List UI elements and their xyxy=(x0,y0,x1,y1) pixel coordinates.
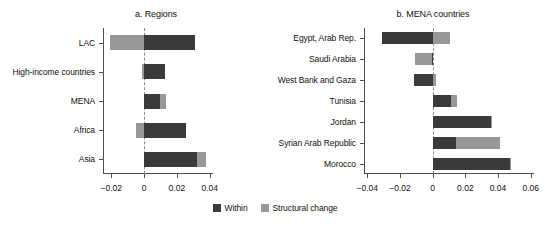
x-axis-tick-label: −0.02 xyxy=(389,183,411,193)
y-axis-category-label: Egypt, Arab Rep. xyxy=(293,33,356,43)
y-axis-category-label: MENA xyxy=(71,96,95,106)
bar-segment xyxy=(510,158,511,170)
y-axis-line-a xyxy=(103,28,104,174)
bar-segment xyxy=(110,35,144,50)
figure-root: a. Regions −0.0200.020.04LACHigh-income … xyxy=(0,0,550,230)
bar-segment xyxy=(433,158,511,170)
bar-segment xyxy=(197,152,205,167)
x-axis-tick-label: 0 xyxy=(430,183,435,193)
bar-segment xyxy=(144,64,165,79)
legend-label: Structural change xyxy=(273,203,338,213)
bar-segment xyxy=(456,137,500,149)
y-axis-tick xyxy=(99,159,103,160)
x-axis-tick-label: −0.02 xyxy=(100,183,122,193)
bar-segment xyxy=(433,74,437,86)
y-axis-category-label: Saudi Arabia xyxy=(309,54,356,64)
bar-segment xyxy=(144,94,160,109)
x-axis-tick xyxy=(400,174,401,178)
panel-b-title: b. MENA countries xyxy=(272,9,550,19)
legend-item-within: Within xyxy=(213,203,248,213)
y-axis-category-label: LAC xyxy=(79,38,95,48)
bar-segment xyxy=(433,32,451,44)
y-axis-category-label: Jordan xyxy=(331,117,356,127)
y-axis-category-label: Syrian Arab Republic xyxy=(279,138,356,148)
plot-area-mena-countries: −0.04−0.0200.020.040.06Egypt, Arab Rep.S… xyxy=(364,28,534,174)
x-axis-tick xyxy=(465,174,466,178)
x-axis-tick xyxy=(177,174,178,178)
bar-segment xyxy=(144,123,186,138)
bar-segment xyxy=(382,32,433,44)
x-axis-tick xyxy=(111,174,112,178)
legend-item-structural: Structural change xyxy=(261,203,338,213)
bar-segment xyxy=(432,53,433,65)
y-axis-tick xyxy=(360,38,364,39)
y-axis-category-label: High-income countries xyxy=(13,67,95,77)
bar-segment xyxy=(433,95,451,107)
legend-swatch-icon xyxy=(261,204,269,212)
x-axis-line-b xyxy=(364,173,534,174)
chart-legend: WithinStructural change xyxy=(0,203,550,213)
y-axis-tick xyxy=(360,164,364,165)
y-axis-category-label: Tunisia xyxy=(330,96,356,106)
x-axis-tick-label: 0 xyxy=(142,183,147,193)
x-axis-line-a xyxy=(103,173,213,174)
legend-label: Within xyxy=(225,203,248,213)
x-axis-tick xyxy=(433,174,434,178)
x-axis-tick xyxy=(144,174,145,178)
y-axis-tick xyxy=(99,72,103,73)
y-axis-tick xyxy=(360,122,364,123)
x-axis-tick-label: 0.02 xyxy=(457,183,474,193)
y-axis-tick xyxy=(360,59,364,60)
bar-segment xyxy=(415,53,432,65)
x-axis-tick xyxy=(210,174,211,178)
x-axis-tick xyxy=(531,174,532,178)
x-axis-tick xyxy=(498,174,499,178)
y-axis-category-label: Africa xyxy=(74,125,95,135)
bar-segment xyxy=(433,116,491,128)
bar-segment xyxy=(491,116,492,128)
y-axis-tick xyxy=(360,80,364,81)
panel-a-title: a. Regions xyxy=(0,9,272,19)
bar-segment xyxy=(144,152,197,167)
bar-segment xyxy=(414,74,433,86)
bar-segment xyxy=(160,94,167,109)
x-axis-tick xyxy=(367,174,368,178)
bar-segment xyxy=(144,35,195,50)
bar-segment xyxy=(136,123,145,138)
x-axis-tick-label: 0.02 xyxy=(169,183,186,193)
bar-segment xyxy=(433,137,456,149)
x-axis-tick-label: 0.04 xyxy=(490,183,507,193)
x-axis-tick-label: −0.04 xyxy=(357,183,379,193)
y-axis-tick xyxy=(99,101,103,102)
x-axis-tick-label: 0.04 xyxy=(201,183,218,193)
x-axis-tick-label: 0.06 xyxy=(522,183,539,193)
y-axis-category-label: West Bank and Gaza xyxy=(278,75,356,85)
y-axis-tick xyxy=(99,130,103,131)
y-axis-category-label: Morocco xyxy=(324,159,356,169)
chart-panel-regions: a. Regions −0.0200.020.04LACHigh-income … xyxy=(0,0,272,196)
y-axis-category-label: Asia xyxy=(79,154,95,164)
chart-panel-mena-countries: b. MENA countries −0.04−0.0200.020.040.0… xyxy=(272,0,550,196)
y-axis-tick xyxy=(360,101,364,102)
plot-area-regions: −0.0200.020.04LACHigh-income countriesME… xyxy=(103,28,213,174)
bar-segment xyxy=(451,95,457,107)
y-axis-tick xyxy=(99,43,103,44)
bar-segment xyxy=(142,64,144,79)
y-axis-tick xyxy=(360,143,364,144)
y-axis-line-b xyxy=(364,28,365,174)
legend-swatch-icon xyxy=(213,204,221,212)
